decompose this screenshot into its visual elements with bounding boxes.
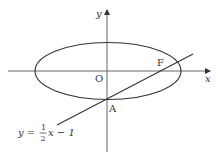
line-equation-label: y = 1 2 x − 1 [17,123,75,143]
x-axis-label: x [205,73,211,84]
equation-numerator: 1 [41,123,46,132]
equation-denominator: 2 [41,134,46,143]
point-f-label: F [157,57,164,68]
equation-prefix: y = [17,127,35,138]
diagram-canvas: y x O F A y = 1 2 x − 1 [0,0,218,159]
origin-label: O [95,73,103,84]
line-y-half-x-minus-1 [57,54,193,125]
equation-suffix: x − 1 [48,127,75,138]
y-axis-label: y [95,8,102,19]
point-a-label: A [108,103,117,114]
